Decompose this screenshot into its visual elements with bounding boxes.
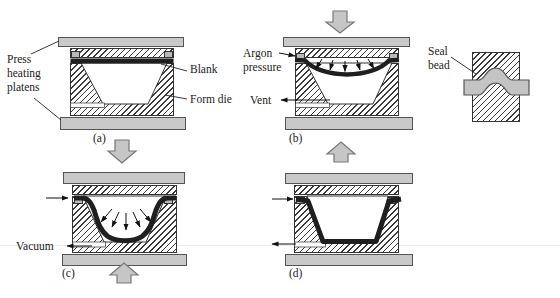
b-seal-bead-right <box>389 53 398 60</box>
b-cover-plate <box>295 48 399 58</box>
c-cover-plate <box>72 185 177 195</box>
b-top-platen <box>283 37 410 47</box>
d-seal-bead-left <box>296 197 305 204</box>
c-form-die <box>72 196 177 253</box>
a-seal-bead-right <box>164 51 173 58</box>
seal-bead-inset-block <box>472 52 520 122</box>
a-bottom-platen <box>60 117 186 130</box>
a-top-platen <box>58 37 184 47</box>
a-cover-plate <box>70 48 174 58</box>
panel-a-label: (a) <box>93 131 106 145</box>
a-form-die <box>70 63 174 116</box>
seal-bead-label: Seal bead <box>428 44 464 72</box>
vent-label: Vent <box>250 93 271 107</box>
blank-label: Blank <box>190 62 217 76</box>
c-seal-bead-left <box>74 197 83 204</box>
press-down-arrow-icon <box>326 11 354 33</box>
press-heating-platens-label: Press heating platens <box>7 52 57 94</box>
sequence-up-arrow-icon <box>327 142 355 162</box>
panel-b-label: (b) <box>289 131 302 145</box>
panel-c-label: (c) <box>62 266 75 280</box>
argon-pressure-label: Argon pressure <box>243 46 299 74</box>
figure-canvas: Press heating platens Blank Form die (a)… <box>0 0 560 298</box>
b-bottom-platen <box>285 117 413 130</box>
press-up-arrow-icon <box>110 263 138 283</box>
panel-d-label: (d) <box>289 266 302 280</box>
d-cover-plate <box>294 185 399 195</box>
c-top-platen <box>63 172 185 184</box>
a-seal-bead-left <box>71 51 80 58</box>
d-form-die <box>294 196 399 253</box>
form-die-label: Form die <box>190 92 232 106</box>
b-form-die <box>295 63 399 116</box>
sequence-down-arrow-icon <box>108 140 136 163</box>
d-top-platen <box>285 173 413 184</box>
d-bottom-platen <box>285 254 413 266</box>
c-bottom-platen <box>62 254 187 266</box>
platens-leader-bottom <box>34 98 61 120</box>
c-seal-bead-right <box>164 197 173 204</box>
vacuum-label: Vacuum <box>16 239 54 253</box>
d-seal-bead-right <box>387 197 396 204</box>
